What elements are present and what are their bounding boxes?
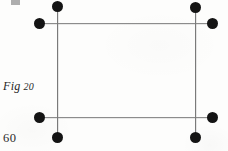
scanned-page: Fig20 60	[0, 0, 228, 151]
dot-bottom-right-outer	[207, 112, 218, 123]
rule-bottom	[39, 117, 212, 118]
ink-bleed-smudge	[11, 0, 20, 5]
figure-caption-word: Fig	[3, 79, 21, 93]
dot-bottom-right-lower	[190, 132, 201, 143]
dot-bottom-left-lower	[52, 132, 63, 143]
dot-top-right-upper	[190, 2, 201, 13]
folio-page-number: 60	[3, 131, 16, 146]
rule-left	[57, 6, 58, 137]
dot-top-left-outer	[34, 18, 45, 29]
rule-right	[195, 7, 196, 137]
figure-caption: Fig20	[3, 79, 34, 94]
figure-caption-number: 20	[24, 81, 34, 92]
dot-top-left-upper	[52, 1, 63, 12]
dot-bottom-left-outer	[34, 112, 45, 123]
rule-top	[39, 23, 212, 24]
dot-top-right-outer	[207, 18, 218, 29]
